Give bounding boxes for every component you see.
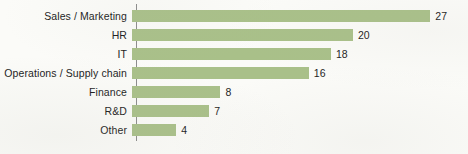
category-label: IT bbox=[0, 48, 132, 60]
bar-row: Operations / Supply chain 16 bbox=[0, 63, 468, 82]
bar-row: IT 18 bbox=[0, 44, 468, 63]
bar-zone: 20 bbox=[132, 25, 468, 44]
bar-value-label: 7 bbox=[209, 105, 220, 117]
bar-zone: 27 bbox=[132, 6, 468, 25]
bar-value-label: 27 bbox=[430, 10, 447, 22]
bar-zone: 7 bbox=[132, 101, 468, 120]
bar-row: Sales / Marketing 27 bbox=[0, 6, 468, 25]
bar-finance bbox=[132, 86, 220, 98]
bar-operations-supply-chain bbox=[132, 67, 309, 79]
bar-zone: 18 bbox=[132, 44, 468, 63]
bar-value-label: 8 bbox=[220, 86, 231, 98]
plot-area: Sales / Marketing 27 HR 20 IT 18 bbox=[0, 0, 468, 154]
bar-hr bbox=[132, 29, 353, 41]
bar-other bbox=[132, 124, 176, 136]
bar-row: Finance 8 bbox=[0, 82, 468, 101]
bar-value-label: 20 bbox=[353, 29, 370, 41]
bar-value-label: 4 bbox=[176, 124, 187, 136]
category-label: Operations / Supply chain bbox=[0, 67, 132, 79]
category-label: R&D bbox=[0, 105, 132, 117]
bar-zone: 8 bbox=[132, 82, 468, 101]
bar-zone: 16 bbox=[132, 63, 468, 82]
bar-row: HR 20 bbox=[0, 25, 468, 44]
bar-chart: Sales / Marketing 27 HR 20 IT 18 bbox=[0, 0, 468, 154]
bar-rd bbox=[132, 105, 209, 117]
category-label: Other bbox=[0, 124, 132, 136]
bar-row: R&D 7 bbox=[0, 101, 468, 120]
bar-value-label: 16 bbox=[309, 67, 326, 79]
category-label: Sales / Marketing bbox=[0, 10, 132, 22]
category-label: HR bbox=[0, 29, 132, 41]
bar-value-label: 18 bbox=[331, 48, 348, 60]
bar-sales-marketing bbox=[132, 10, 430, 22]
bar-row: Other 4 bbox=[0, 120, 468, 139]
bar-zone: 4 bbox=[132, 120, 468, 139]
category-label: Finance bbox=[0, 86, 132, 98]
bar-it bbox=[132, 48, 331, 60]
bar-rows: Sales / Marketing 27 HR 20 IT 18 bbox=[0, 6, 468, 139]
